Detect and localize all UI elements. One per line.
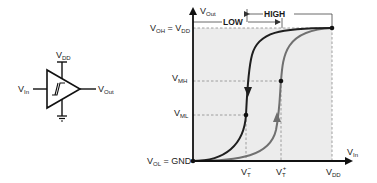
x-tick-vdd: VDD — [326, 167, 341, 178]
y-tick-vml: VML — [174, 108, 189, 119]
transfer-chart: LOW HIGH VOut VIn VOH = VDD VMH — [147, 6, 358, 178]
high-label: HIGH — [264, 9, 285, 19]
shaded-operating-region — [193, 28, 332, 161]
x-axis-title: VIn — [347, 147, 358, 158]
point-voh-vdd — [330, 26, 335, 31]
y-tick-vol-gnd: VOL = GND — [147, 156, 192, 167]
schmitt-trigger-diagram: VDD VIn VOut — [0, 0, 377, 183]
y-tick-vmh: VMH — [172, 73, 187, 84]
y-tick-voh-vdd: VOH = VDD — [150, 23, 191, 34]
buffer-triangle-icon — [47, 70, 80, 108]
y-axis-title: VOut — [200, 6, 216, 17]
x-tick-vt-plus: VT+ — [276, 165, 287, 178]
point-vmh-vtplus — [279, 79, 284, 84]
hysteresis-icon — [52, 83, 65, 95]
symbol-vdd-label: VDD — [56, 50, 71, 61]
low-label: LOW — [223, 17, 244, 27]
x-tick-vt-minus: VT− — [241, 165, 252, 178]
symbol-vout-label: VOut — [98, 84, 114, 95]
point-vml-vtminus — [244, 113, 249, 118]
schmitt-trigger-symbol: VDD VIn VOut — [18, 50, 114, 121]
symbol-vin-label: VIn — [18, 84, 29, 95]
ground-icon — [57, 116, 67, 121]
